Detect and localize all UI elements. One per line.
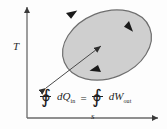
work-out-term: dWout — [109, 91, 132, 104]
contour-integral-icon-right: ∮ — [92, 87, 103, 106]
x-axis-label: s — [91, 112, 95, 121]
contour-integral-icon-left: ∮ — [40, 87, 51, 106]
cycle-direction-arrow-top-left — [66, 8, 79, 20]
heat-in-term: dQin — [57, 91, 76, 104]
y-axis-label: T — [13, 41, 19, 52]
cycle-equation: ∮ dQin = ∮ dWout — [40, 88, 132, 107]
contour-bar-right — [92, 96, 103, 97]
contour-bar-left — [40, 96, 51, 97]
diagram-canvas — [0, 0, 167, 129]
subscript-in: in — [70, 98, 75, 104]
equals-sign: = — [78, 92, 90, 104]
subscript-out: out — [123, 98, 131, 104]
ts-diagram-figure: T s ∮ dQin = ∮ dWout — [0, 0, 167, 129]
